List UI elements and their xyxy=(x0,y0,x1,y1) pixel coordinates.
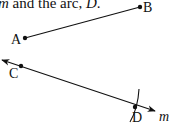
label-d: D xyxy=(132,110,142,125)
label-a: A xyxy=(11,32,22,47)
line-m xyxy=(2,60,155,111)
label-m: m xyxy=(159,109,169,124)
point-a xyxy=(23,36,27,40)
label-c: C xyxy=(9,66,18,81)
label-b: B xyxy=(143,0,152,15)
geometry-diagram: A B C D m xyxy=(0,0,171,127)
point-c xyxy=(19,64,23,68)
point-b xyxy=(138,5,142,9)
segment-ab xyxy=(25,7,140,38)
point-d xyxy=(133,105,137,109)
